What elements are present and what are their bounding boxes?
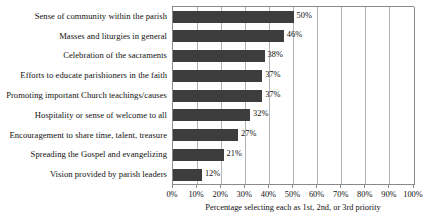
bar-value-label: 50% bbox=[294, 10, 312, 22]
bar bbox=[173, 129, 238, 141]
bar-row: 12% bbox=[173, 165, 414, 185]
x-tick-label: 100% bbox=[396, 189, 430, 200]
bar bbox=[173, 149, 224, 161]
category-label: Efforts to educate parishioners in the f… bbox=[0, 70, 167, 80]
x-tick bbox=[364, 184, 365, 188]
bar-row: 37% bbox=[173, 86, 414, 106]
category-label: Encouragement to share time, talent, tre… bbox=[0, 130, 167, 140]
category-axis-labels: Sense of community within the parishMass… bbox=[0, 6, 170, 184]
bar-value-label: 46% bbox=[284, 29, 302, 41]
bar-row: 27% bbox=[173, 126, 414, 146]
category-label: Promoting important Church teachings/cau… bbox=[0, 90, 167, 100]
x-tick bbox=[292, 184, 293, 188]
category-label: Vision provided by parish leaders bbox=[0, 169, 167, 179]
x-tick bbox=[268, 184, 269, 188]
bar-value-label: 38% bbox=[265, 49, 283, 61]
bar-row: 37% bbox=[173, 66, 414, 86]
bar-row: 21% bbox=[173, 145, 414, 165]
x-axis-title: Percentage selecting each as 1st, 2nd, o… bbox=[172, 202, 414, 213]
bar bbox=[173, 70, 262, 82]
horizontal-bar-chart: Sense of community within the parishMass… bbox=[0, 0, 431, 220]
bar-row: 46% bbox=[173, 27, 414, 47]
bar bbox=[173, 30, 284, 42]
bar-value-label: 37% bbox=[262, 89, 280, 101]
bar bbox=[173, 169, 202, 181]
bars-layer: 50%46%38%37%37%32%27%21%12% bbox=[173, 7, 414, 185]
category-label: Sense of community within the parish bbox=[0, 11, 167, 21]
bar bbox=[173, 90, 262, 102]
category-label: Hospitality or sense of welcome to all bbox=[0, 110, 167, 120]
category-label: Spreading the Gospel and evangelizing bbox=[0, 149, 167, 159]
x-tick bbox=[220, 184, 221, 188]
x-tick bbox=[316, 184, 317, 188]
x-tick bbox=[244, 184, 245, 188]
x-tick bbox=[388, 184, 389, 188]
x-tick bbox=[413, 184, 414, 188]
bar-value-label: 37% bbox=[262, 69, 280, 81]
x-axis-line bbox=[172, 184, 414, 185]
bar-row: 50% bbox=[173, 7, 414, 27]
bar bbox=[173, 50, 265, 62]
bar-value-label: 12% bbox=[202, 168, 220, 180]
bar-row: 32% bbox=[173, 106, 414, 126]
bar-value-label: 27% bbox=[238, 128, 256, 140]
x-tick bbox=[340, 184, 341, 188]
bar-value-label: 21% bbox=[224, 148, 242, 160]
bar-row: 38% bbox=[173, 47, 414, 67]
x-tick bbox=[196, 184, 197, 188]
plot-area: 50%46%38%37%37%32%27%21%12% bbox=[172, 6, 414, 185]
x-tick bbox=[172, 184, 173, 188]
bar-value-label: 32% bbox=[250, 108, 268, 120]
bar bbox=[173, 109, 250, 121]
category-label: Masses and liturgies in general bbox=[0, 31, 167, 41]
category-label: Celebration of the sacraments bbox=[0, 50, 167, 60]
bar bbox=[173, 11, 294, 23]
